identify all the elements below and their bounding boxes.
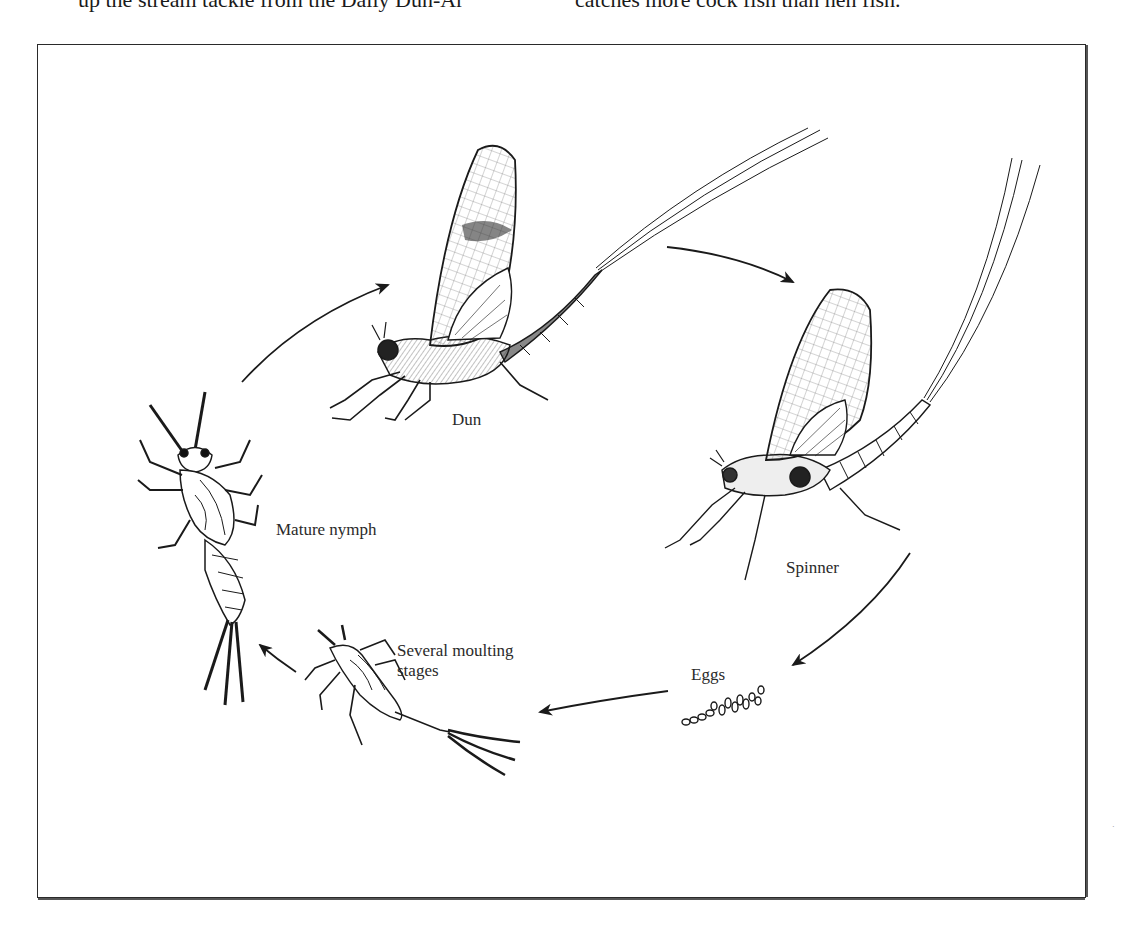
stray-mark: · [1112,822,1115,831]
life-cycle-illustration [0,0,1129,926]
arrow-eggs-to-moulting [540,691,668,712]
moulting-label: Several moulting stages [397,641,514,681]
spinner-illustration [665,158,1040,580]
moulting-label-line2: stages [397,661,514,681]
mature-nymph-label: Mature nymph [276,520,377,540]
moulting-label-line1: Several moulting [397,641,514,661]
arrow-nymph-to-dun [242,285,388,382]
dun-label: Dun [452,410,481,430]
dun-illustration [330,128,828,420]
eggs-illustration [682,686,764,725]
arrow-moulting-to-nymph [260,645,296,672]
eggs-label: Eggs [691,665,725,685]
mature-nymph-illustration [138,392,262,705]
spinner-label: Spinner [786,558,839,578]
arrow-dun-to-spinner [667,247,793,282]
